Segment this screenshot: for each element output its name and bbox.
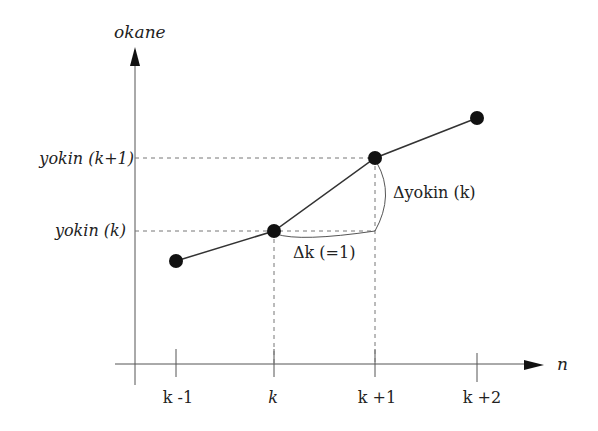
delta-k-brace <box>276 231 375 237</box>
point-k-1 <box>169 254 183 268</box>
point-k <box>267 224 281 238</box>
y-axis-label: okane <box>114 22 166 42</box>
delta-yokin-brace <box>375 163 386 231</box>
x-tick-label-k: k <box>268 388 278 407</box>
y-axis-arrow-icon <box>130 47 140 66</box>
x-tick-label-k+2: k +2 <box>463 388 501 407</box>
point-k+1 <box>368 151 382 165</box>
y-tick-label-yokin-k1: yokin (k+1) <box>38 149 134 168</box>
x-axis-arrow-icon <box>524 360 544 370</box>
point-k+2 <box>470 111 484 125</box>
x-axis-label: n <box>557 354 568 374</box>
y-tick-label-yokin-k: yokin (k) <box>54 221 126 240</box>
diagram-canvas: okane n yokin (k+1) yokin (k) k -1 k k +… <box>0 0 598 431</box>
delta-k-label: Δk (=1) <box>293 243 355 262</box>
x-tick-label-k+1: k +1 <box>358 388 396 407</box>
delta-yokin-label: Δyokin (k) <box>393 183 476 202</box>
x-tick-label-k-1: k -1 <box>163 388 193 407</box>
